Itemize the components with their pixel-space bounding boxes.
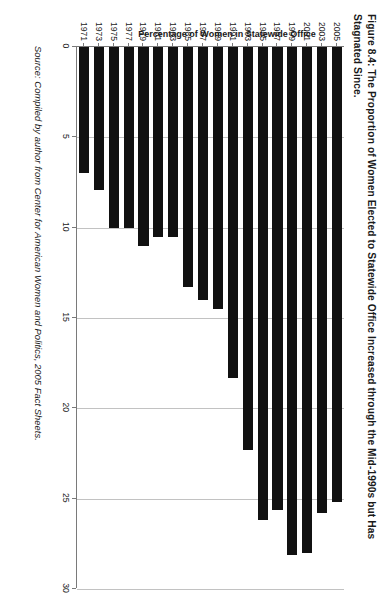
bar-1971	[79, 47, 89, 173]
bar-row	[91, 47, 106, 588]
category-axis: 051015202530	[50, 46, 76, 588]
bar-1999	[287, 47, 297, 555]
bar-1993	[243, 47, 253, 450]
bar-2003	[317, 47, 327, 513]
bar-2001	[302, 47, 312, 553]
bar-row	[225, 47, 240, 588]
figure-title: Figure 8.4: The Proportion of Women Elec…	[350, 14, 378, 574]
bar-1985	[183, 47, 193, 287]
bar-row	[121, 47, 136, 588]
bar-row	[315, 47, 330, 588]
value-tick	[72, 317, 76, 318]
value-tick-label: 10	[61, 222, 71, 232]
bar-1991	[228, 47, 238, 378]
bar-1977	[124, 47, 134, 228]
bar-row	[106, 47, 121, 588]
value-axis-title-holder: Percentage of Women in Statewide Office	[76, 12, 344, 26]
bar-row	[240, 47, 255, 588]
bar-row	[166, 47, 181, 588]
value-tick	[72, 407, 76, 408]
value-tick-label: 25	[61, 493, 71, 503]
plot-area	[76, 46, 344, 588]
bar-1989	[213, 47, 223, 309]
value-tick-label: 15	[61, 312, 71, 322]
value-tick-label: 20	[61, 403, 71, 413]
value-tick	[72, 46, 76, 47]
bar-1983	[168, 47, 178, 237]
bar-row	[196, 47, 211, 588]
gridline	[77, 589, 344, 590]
bar-1973	[94, 47, 104, 190]
value-tick-label: 5	[61, 134, 71, 139]
value-tick-label: 0	[61, 44, 71, 49]
bar-1975	[109, 47, 119, 228]
bar-row	[151, 47, 166, 588]
bar-1979	[138, 47, 148, 246]
rotated-page-wrapper: Figure 8.4: The Proportion of Women Elec…	[0, 0, 386, 606]
bar-row	[285, 47, 300, 588]
bar-row	[136, 47, 151, 588]
value-axis-title: Percentage of Women in Statewide Office	[93, 29, 361, 39]
source-note: Source: Compiled by author from Center f…	[33, 46, 44, 596]
value-tick-label: 30	[61, 583, 71, 593]
value-tick	[72, 588, 76, 589]
bar-row	[300, 47, 315, 588]
bar-row	[181, 47, 196, 588]
bar-1981	[153, 47, 163, 237]
bar-row	[270, 47, 285, 588]
bar-row	[76, 47, 91, 588]
value-tick	[72, 136, 76, 137]
bar-row	[210, 47, 225, 588]
value-tick	[72, 227, 76, 228]
bar-2005	[332, 47, 342, 502]
bar-series	[77, 47, 344, 588]
bar-1987	[198, 47, 208, 300]
bar-row	[330, 47, 345, 588]
figure-container: Figure 8.4: The Proportion of Women Elec…	[0, 0, 386, 606]
bar-row	[255, 47, 270, 588]
bar-1997	[272, 47, 282, 510]
value-tick	[72, 498, 76, 499]
bar-1995	[258, 47, 268, 520]
